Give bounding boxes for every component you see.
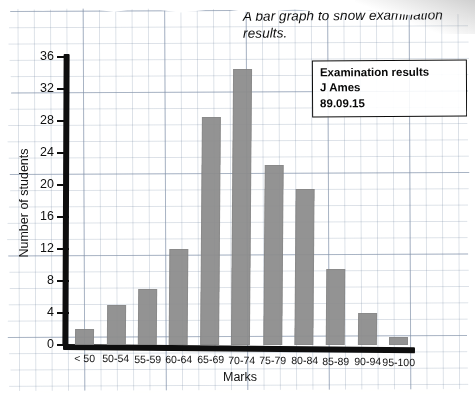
y-tick-label-text: 36 <box>28 50 54 63</box>
y-tick-36 <box>57 56 69 58</box>
bar-55-59 <box>138 289 157 345</box>
y-tick-label-text: 8 <box>28 274 54 287</box>
bar-60-64 <box>169 249 189 345</box>
y-tick-label-text: 0 <box>28 338 54 351</box>
y-tick-label-32: 32 <box>14 82 54 94</box>
y-tick-label-text: 28 <box>28 114 54 127</box>
legend-line-date: 89.09.15 <box>320 95 460 111</box>
bar-65-69 <box>200 117 221 345</box>
y-tick-label-text: 20 <box>28 178 54 191</box>
y-tick-0 <box>57 344 69 346</box>
y-tick-label-text: 4 <box>28 306 54 319</box>
bar-80-84 <box>294 189 314 345</box>
y-tick-label-4: 4 <box>14 306 54 318</box>
y-tick-28 <box>57 120 69 122</box>
y-tick-label-36: 36 <box>14 50 54 62</box>
y-tick-12 <box>57 248 69 250</box>
legend-box: Examination results J Ames 89.09.15 <box>312 60 467 118</box>
y-tick-label-text: 12 <box>28 242 54 255</box>
legend-line-author: J Ames <box>320 80 460 96</box>
y-tick-label-text: 16 <box>28 210 54 223</box>
legend-line-title: Examination results <box>320 65 460 81</box>
bar-90-94 <box>358 313 377 345</box>
y-tick-32 <box>57 88 69 90</box>
x-axis-title: Marks <box>185 370 295 384</box>
bar-chart: 04812162024283236 Number of students < 5… <box>0 0 475 403</box>
y-tick-label-text: 24 <box>28 146 54 159</box>
y-tick-24 <box>57 152 69 154</box>
bar-50 <box>75 329 94 345</box>
y-tick-16 <box>57 216 69 218</box>
y-axis-line <box>62 54 69 346</box>
y-tick-label-text: 32 <box>28 82 54 95</box>
bar-70-74 <box>231 69 252 345</box>
scanned-graph-paper-page: 04812162024283236 Number of students < 5… <box>0 0 475 403</box>
x-tick-label: 95-100 <box>380 355 417 367</box>
bar-95-100 <box>389 337 408 345</box>
y-tick-20 <box>57 184 69 186</box>
y-tick-4 <box>57 312 69 314</box>
y-axis-title: Number of students <box>17 123 31 283</box>
y-tick-8 <box>57 280 69 282</box>
bar-85-89 <box>326 269 346 345</box>
y-tick-label-0: 0 <box>14 338 54 350</box>
bar-75-79 <box>263 165 283 345</box>
bar-50-54 <box>106 305 125 345</box>
